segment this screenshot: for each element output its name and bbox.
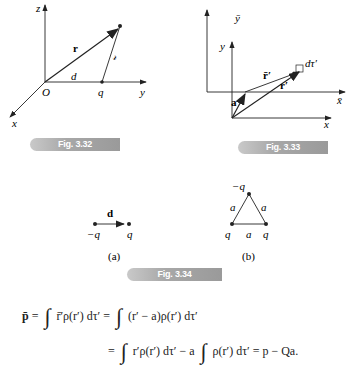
svg-text:y: y bbox=[219, 40, 225, 52]
integral-sign: ∫ bbox=[121, 339, 127, 364]
svg-text:ȳ: ȳ bbox=[234, 12, 241, 24]
svg-text:−q: −q bbox=[232, 180, 245, 192]
svg-text:q: q bbox=[263, 228, 269, 240]
svg-text:x: x bbox=[11, 117, 17, 129]
svg-text:x: x bbox=[323, 118, 329, 130]
integral-sign: ∫ bbox=[116, 304, 122, 329]
svg-text:a: a bbox=[230, 201, 236, 213]
svg-text:q: q bbox=[127, 228, 133, 240]
svg-text:O: O bbox=[42, 86, 50, 98]
figure-3-32-caption: Fig. 3.32 bbox=[30, 138, 120, 151]
figure-3-34-diagram: d −q q (a) −q a a a q q (b) bbox=[60, 160, 310, 265]
figure-3-32-diagram: z y x O r 𝓇 d q bbox=[0, 0, 175, 135]
svg-text:r: r bbox=[73, 42, 78, 54]
svg-text:r̄′: r̄′ bbox=[263, 69, 271, 81]
equation-line-2: = ∫ r′ρ(r′) dτ′ − a ∫ ρ(r′) dτ′ = p − Qa… bbox=[108, 335, 298, 361]
z-axis-label: z bbox=[35, 2, 41, 14]
svg-text:(b): (b) bbox=[242, 250, 255, 263]
svg-text:(a): (a) bbox=[108, 250, 121, 263]
figure-3-33-diagram: ȳ x̄ y x a r̄′ r′ dτ′ bbox=[175, 0, 347, 135]
svg-text:q: q bbox=[98, 86, 104, 98]
svg-text:y: y bbox=[139, 86, 145, 98]
svg-text:x̄: x̄ bbox=[336, 94, 342, 106]
integral-sign: ∫ bbox=[201, 339, 207, 364]
equation-line-1: p̄ = ∫ r̄′ρ(r′) dτ′ = ∫ (r′ − a)ρ(r′) dτ… bbox=[22, 300, 198, 326]
svg-text:𝓇: 𝓇 bbox=[112, 50, 117, 62]
figure-3-33-caption: Fig. 3.33 bbox=[238, 141, 328, 154]
integral-sign: ∫ bbox=[44, 304, 50, 329]
svg-text:a: a bbox=[246, 228, 252, 240]
svg-text:r′: r′ bbox=[280, 79, 288, 91]
figure-3-34-caption: Fig. 3.34 bbox=[127, 268, 222, 281]
svg-text:a: a bbox=[231, 96, 237, 108]
svg-text:d: d bbox=[107, 207, 113, 219]
svg-text:q: q bbox=[225, 228, 231, 240]
svg-text:−q: −q bbox=[87, 228, 100, 240]
svg-text:a: a bbox=[261, 201, 267, 213]
svg-text:d: d bbox=[71, 70, 77, 82]
svg-text:dτ′: dτ′ bbox=[305, 57, 317, 69]
